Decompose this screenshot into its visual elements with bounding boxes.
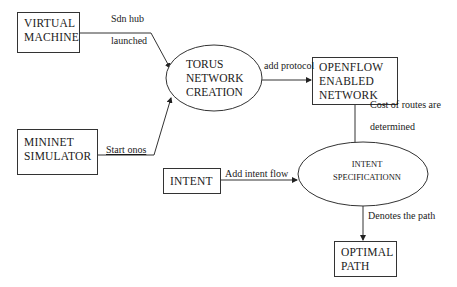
node-text: MININET	[24, 135, 97, 149]
node-text: VIRTUAL	[24, 16, 79, 30]
openflow-enabled-network-node: OPENFLOW ENABLED NETWORK	[312, 57, 398, 105]
intent-node: INTENT	[163, 168, 221, 194]
virtual-machine-node: VIRTUAL MACHINE	[17, 12, 80, 53]
node-text: SPECIFICATIONN	[328, 171, 406, 184]
node-text: CREATION	[186, 85, 244, 99]
edge-label-add-intent-flow: Add intent flow	[225, 168, 288, 179]
node-text: OPTIMAL	[341, 245, 396, 259]
edge-label-determined: determined	[370, 121, 415, 132]
node-text: INTENT	[170, 174, 220, 188]
edge-label-launched: launched	[111, 35, 147, 46]
node-text: PATH	[341, 259, 396, 273]
edge-label-sdn-hub: Sdn hub	[111, 13, 144, 24]
edge-label-add-protocol: add protocol	[264, 60, 314, 71]
intent-specification-node: INTENT SPECIFICATIONN	[328, 158, 406, 184]
node-text: MACHINE	[24, 30, 79, 44]
optimal-path-node: OPTIMAL PATH	[334, 241, 397, 277]
torus-network-creation-node: TORUS NETWORK CREATION	[186, 57, 244, 99]
node-text: ENABLED	[319, 74, 397, 88]
edge-label-denotes-path: Denotes the path	[368, 210, 435, 221]
node-text: OPENFLOW	[319, 60, 397, 74]
node-text: NETWORK	[186, 71, 244, 85]
node-text: TORUS	[186, 57, 244, 71]
edge-label-cost-of-routes: Cost of routes are	[370, 99, 441, 110]
node-text: INTENT	[328, 158, 406, 171]
node-text: SIMULATOR	[24, 149, 97, 163]
mininet-simulator-node: MININET SIMULATOR	[17, 129, 98, 175]
edge-label-start-onos: Start onos	[106, 144, 146, 155]
